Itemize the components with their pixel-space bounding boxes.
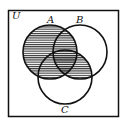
set-a-label: A	[46, 14, 54, 25]
set-c-label: C	[61, 104, 69, 115]
universe-label: U	[12, 10, 21, 21]
venn-diagram: U A B C	[0, 0, 125, 120]
set-b-label: B	[75, 14, 83, 25]
